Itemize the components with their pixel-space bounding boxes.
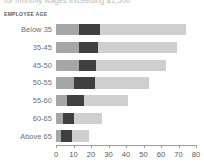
category-label: 45-50	[0, 56, 52, 74]
bar-segment	[63, 113, 74, 124]
chart-row: 35-45	[0, 39, 204, 57]
bar-segment	[56, 113, 63, 124]
bar-segment	[56, 95, 67, 106]
headline-text: for monthly wages exceeding $1,500	[4, 0, 204, 5]
bar-segment	[67, 95, 85, 106]
bar-segment	[56, 60, 79, 71]
bar-segment	[61, 130, 72, 141]
axis-tick	[109, 145, 110, 148]
axis-tick	[74, 145, 75, 148]
bar-segment	[74, 113, 102, 124]
stacked-bar-chart: for monthly wages exceeding $1,500 EMPLO…	[0, 0, 204, 166]
axis-tick	[179, 145, 180, 148]
bar-track	[56, 24, 196, 35]
bar-segment	[79, 42, 98, 53]
axis-tick	[196, 145, 197, 148]
bar-track	[56, 95, 196, 106]
axis-tick-label: 70	[174, 150, 182, 159]
chart-row: 55-60	[0, 92, 204, 110]
bar-track	[56, 60, 196, 71]
bar-segment	[98, 42, 177, 53]
axis-tick	[56, 145, 57, 148]
axis-tick-label: 60	[157, 150, 165, 159]
chart-row: 60-65	[0, 110, 204, 128]
category-axis-title: EMPLOYEE AGE	[4, 11, 47, 17]
chart-row: 50-55	[0, 74, 204, 92]
bar-segment	[56, 24, 79, 35]
bar-segment	[84, 95, 128, 106]
axis-tick	[91, 145, 92, 148]
chart-row: Below 35	[0, 21, 204, 39]
category-label: 35-45	[0, 39, 52, 57]
axis-tick	[161, 145, 162, 148]
bar-segment	[56, 77, 74, 88]
axis-tick-label: 0	[54, 150, 58, 159]
category-label: Below 35	[0, 21, 52, 39]
bar-segment	[96, 60, 166, 71]
chart-row: 45-50	[0, 56, 204, 74]
bar-segment	[72, 130, 90, 141]
chart-row: Above 65	[0, 127, 204, 145]
axis-tick	[144, 145, 145, 148]
axis-tick-label: 40	[122, 150, 130, 159]
axis-tick	[126, 145, 127, 148]
category-label: 60-65	[0, 110, 52, 128]
bar-track	[56, 42, 196, 53]
bar-segment	[100, 24, 186, 35]
bar-segment	[56, 42, 79, 53]
bar-segment	[95, 77, 149, 88]
plot-area: Below 3535-4545-5050-5555-6060-65Above 6…	[0, 21, 204, 145]
value-axis: 01020304050607080	[0, 145, 204, 166]
axis-tick-label: 20	[87, 150, 95, 159]
bar-track	[56, 130, 196, 141]
axis-tick-label: 10	[69, 150, 77, 159]
bar-segment	[79, 24, 100, 35]
bar-segment	[79, 60, 97, 71]
axis-tick-label: 30	[104, 150, 112, 159]
bar-segment	[74, 77, 95, 88]
axis-tick-label: 80	[192, 150, 200, 159]
category-label: 50-55	[0, 74, 52, 92]
axis-tick-label: 50	[139, 150, 147, 159]
category-label: Above 65	[0, 127, 52, 145]
bar-track	[56, 77, 196, 88]
bar-track	[56, 113, 196, 124]
category-label: 55-60	[0, 92, 52, 110]
